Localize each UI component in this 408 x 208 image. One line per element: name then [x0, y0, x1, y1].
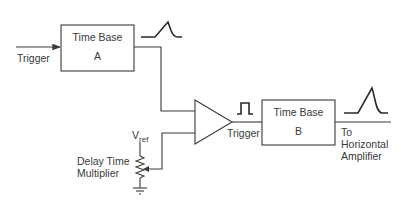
output-label-line2: Horizontal	[341, 138, 388, 150]
pot-label-line2: Multiplier	[77, 167, 120, 179]
vref-label: Vref	[132, 129, 149, 144]
pot-label-line1: Delay Time	[77, 155, 130, 167]
ramp-a-waveform-icon	[141, 22, 182, 37]
trigger-input-label: Trigger	[17, 52, 50, 64]
time-base-b-sub: B	[295, 125, 302, 137]
ground-icon	[133, 188, 147, 194]
time-base-a-output-line	[134, 47, 195, 111]
time-base-a-sub: A	[94, 50, 101, 62]
wiper-line	[146, 133, 195, 169]
gate-pulse-waveform-icon	[237, 103, 253, 114]
comparator-output-label: Trigger	[227, 127, 260, 139]
ramp-b-waveform-icon	[344, 88, 388, 113]
output-label-line3: Amplifier	[341, 150, 382, 162]
time-base-a-title: Time Base	[73, 31, 123, 43]
wiper-arrow-icon	[143, 166, 149, 172]
delayed-sweep-diagram: Trigger Time Base A Vref Delay Time Mult…	[0, 0, 408, 208]
output-label-line1: To	[341, 126, 352, 138]
time-base-b-title: Time Base	[274, 106, 324, 118]
potentiometer-icon	[136, 156, 144, 178]
